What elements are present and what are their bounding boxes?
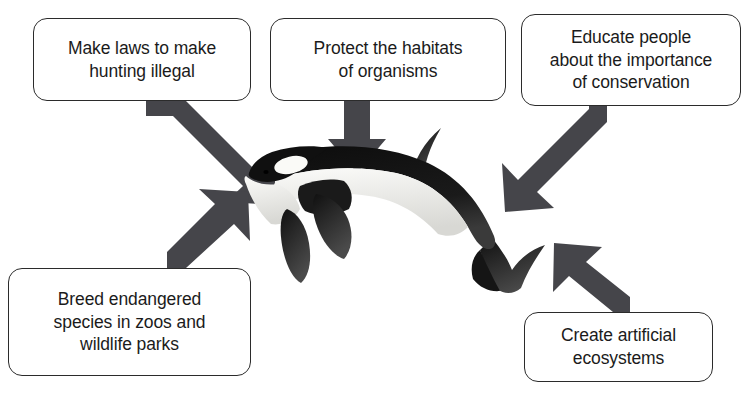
box-breed-endangered-line-1: Breed endangered bbox=[54, 288, 206, 311]
box-educate-people-line-1: Educate people bbox=[550, 26, 712, 49]
orca-pectoral-fin-front bbox=[281, 209, 311, 283]
box-educate-people-line-2: about the importance bbox=[550, 49, 712, 72]
box-breed-endangered[interactable]: Breed endangered species in zoos and wil… bbox=[8, 268, 251, 376]
box-create-artificial-ecosystems-line-1: Create artificial bbox=[561, 324, 676, 347]
box-create-artificial-ecosystems[interactable]: Create artificial ecosystems bbox=[524, 312, 713, 382]
box-make-laws-line-2: hunting illegal bbox=[68, 60, 216, 83]
box-educate-people-line-3: of conservation bbox=[550, 71, 712, 94]
box-breed-endangered-line-3: wildlife parks bbox=[54, 333, 206, 356]
box-breed-endangered-line-2: species in zoos and bbox=[54, 311, 206, 334]
box-protect-habitats[interactable]: Protect the habitats of organisms bbox=[270, 18, 506, 101]
box-protect-habitats-text: Protect the habitats of organisms bbox=[314, 37, 463, 83]
box-make-laws-line-1: Make laws to make bbox=[68, 37, 216, 60]
box-make-laws-text: Make laws to make hunting illegal bbox=[68, 37, 216, 83]
box-make-laws[interactable]: Make laws to make hunting illegal bbox=[33, 18, 251, 101]
box-protect-habitats-line-2: of organisms bbox=[314, 60, 463, 83]
box-breed-endangered-text: Breed endangered species in zoos and wil… bbox=[54, 288, 206, 356]
box-educate-people-text: Educate people about the importance of c… bbox=[550, 26, 712, 94]
box-create-artificial-ecosystems-text: Create artificial ecosystems bbox=[561, 324, 676, 370]
box-educate-people[interactable]: Educate people about the importance of c… bbox=[521, 14, 741, 106]
box-create-artificial-ecosystems-line-2: ecosystems bbox=[561, 347, 676, 370]
diagram-canvas: Make laws to make hunting illegal Protec… bbox=[0, 0, 752, 399]
box-protect-habitats-line-1: Protect the habitats bbox=[314, 37, 463, 60]
orca-eye bbox=[263, 170, 268, 174]
